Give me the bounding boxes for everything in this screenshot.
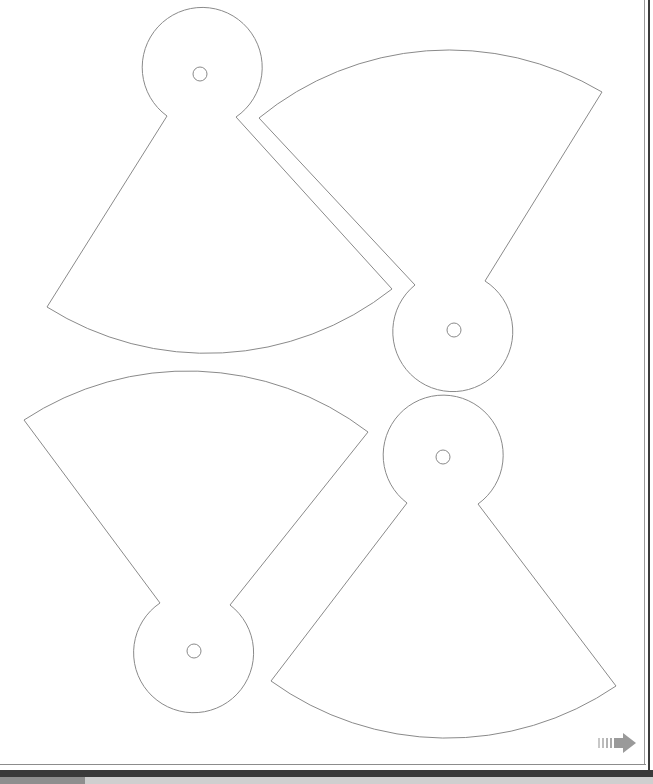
pieces-group xyxy=(24,7,616,738)
bottom-band-right xyxy=(85,777,653,784)
page-border-right-outer xyxy=(648,0,650,770)
page-border-right-inner xyxy=(644,0,645,765)
cutout-pieces-canvas xyxy=(0,0,653,784)
striped-right-arrow-icon xyxy=(598,733,638,753)
bottom-dark-band xyxy=(0,770,653,777)
template-page xyxy=(0,0,653,784)
bottom-band-left xyxy=(0,777,85,784)
next-page-button[interactable] xyxy=(598,733,638,753)
page-border-bottom xyxy=(0,764,646,765)
